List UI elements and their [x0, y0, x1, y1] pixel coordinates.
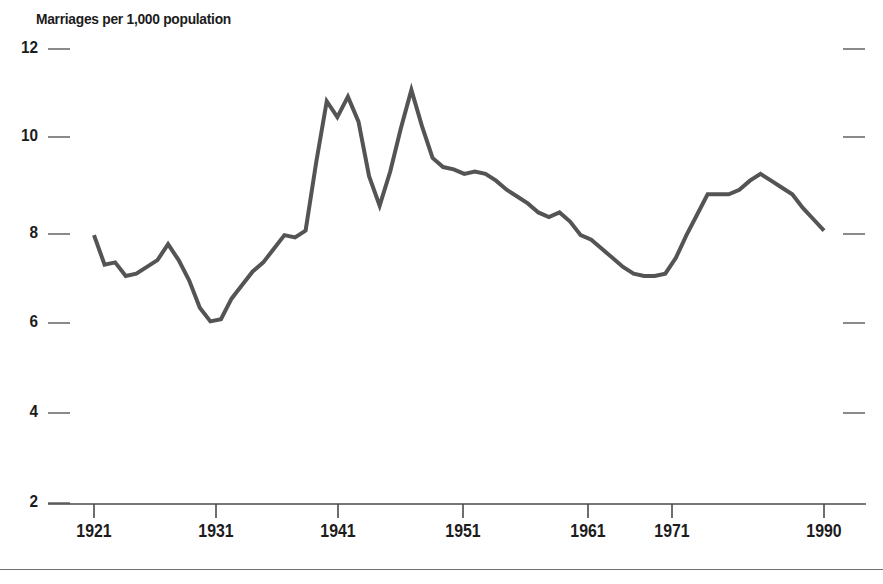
chart-plot-area [0, 0, 883, 584]
y-tick-label-4: 4 [6, 402, 38, 422]
x-tick-label-1931: 1931 [181, 521, 251, 542]
x-tick-label-1961: 1961 [553, 521, 623, 542]
y-axis-ticks-left [48, 49, 70, 503]
x-tick-label-1921: 1921 [59, 521, 129, 542]
x-tick-label-1951: 1951 [428, 521, 498, 542]
x-tick-label-1971: 1971 [637, 521, 707, 542]
y-axis-ticks-right [843, 49, 865, 413]
x-axis-ticks [94, 504, 824, 518]
y-tick-label-2: 2 [6, 492, 38, 512]
marriage-rate-chart-figure: Marriages per 1,000 population 12108642 … [0, 0, 883, 584]
x-tick-label-1990: 1990 [789, 521, 859, 542]
footer-divider-rule [0, 569, 883, 570]
x-tick-label-1941: 1941 [303, 521, 373, 542]
y-tick-label-6: 6 [6, 312, 38, 332]
y-tick-label-12: 12 [6, 38, 38, 58]
y-tick-label-10: 10 [6, 126, 38, 146]
y-tick-label-8: 8 [6, 223, 38, 243]
marriage-rate-series-line [94, 90, 824, 322]
